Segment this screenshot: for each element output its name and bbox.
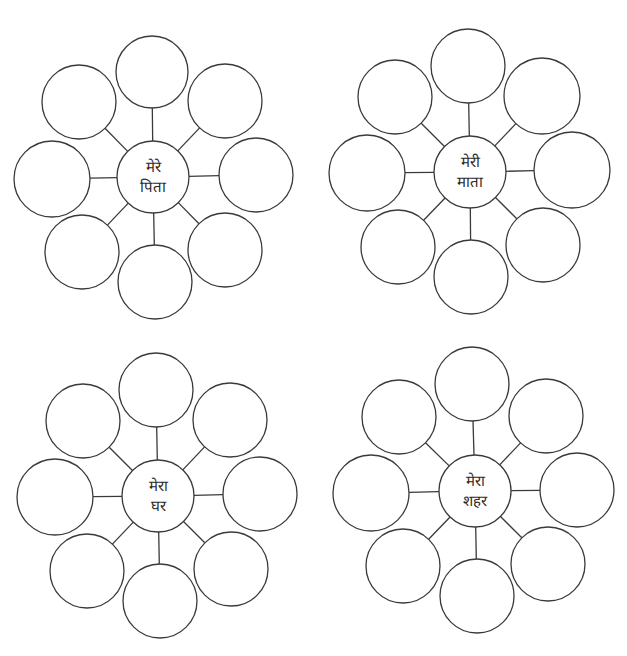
- connector-line: [501, 517, 522, 538]
- connector-line: [183, 447, 205, 470]
- connector-line: [90, 178, 117, 179]
- connector-line: [473, 421, 474, 455]
- connector-line: [184, 522, 205, 543]
- connector-line: [178, 203, 199, 224]
- connector-line: [476, 527, 477, 559]
- center-topic-label: मेरी: [461, 153, 481, 171]
- empty-answer-circle[interactable]: [329, 135, 405, 211]
- connector-line: [107, 203, 128, 225]
- empty-answer-circle[interactable]: [42, 65, 116, 139]
- connector-line: [159, 532, 160, 564]
- connector-line: [109, 447, 132, 470]
- empty-answer-circle[interactable]: [46, 384, 120, 458]
- connector-line: [429, 517, 451, 539]
- empty-answer-circle[interactable]: [504, 58, 580, 134]
- center-topic-label: शहर: [463, 492, 488, 510]
- mind-map-mera-ghar: मेराघर: [17, 353, 297, 638]
- center-topic-label: मेरा: [466, 472, 486, 490]
- empty-answer-circle[interactable]: [358, 60, 432, 134]
- empty-answer-circle[interactable]: [188, 213, 262, 287]
- mind-map-meri-mata: मेरीमाता: [329, 29, 610, 314]
- empty-answer-circle[interactable]: [366, 529, 440, 603]
- connector-line: [409, 492, 439, 493]
- connector-line: [496, 198, 517, 219]
- empty-answer-circle[interactable]: [434, 240, 508, 314]
- mind-map-mere-pita: मेरेपिता: [14, 36, 293, 319]
- empty-answer-circle[interactable]: [440, 559, 514, 633]
- mind-map-worksheet: मेरेपितामेरीमातामेराघरमेराशहर: [0, 0, 627, 656]
- empty-answer-circle[interactable]: [194, 532, 268, 606]
- connector-line: [469, 103, 470, 136]
- center-topic-label: माता: [457, 173, 484, 191]
- empty-answer-circle[interactable]: [17, 459, 93, 535]
- center-topic-circle: [122, 460, 194, 532]
- empty-answer-circle[interactable]: [509, 379, 583, 453]
- center-topic-label: मेरे: [146, 158, 162, 176]
- empty-answer-circle[interactable]: [361, 210, 435, 284]
- connector-line: [426, 443, 450, 466]
- empty-answer-circle[interactable]: [119, 353, 193, 427]
- center-topic-circle: [117, 141, 189, 213]
- connector-line: [500, 443, 521, 465]
- connector-line: [194, 495, 223, 496]
- empty-answer-circle[interactable]: [45, 215, 119, 289]
- empty-answer-circle[interactable]: [362, 380, 436, 454]
- empty-answer-circle[interactable]: [14, 141, 90, 217]
- center-topic-circle: [434, 136, 506, 208]
- empty-answer-circle[interactable]: [50, 534, 124, 608]
- empty-answer-circle[interactable]: [118, 245, 192, 319]
- connector-line: [105, 128, 128, 151]
- connector-line: [424, 198, 446, 220]
- connector-line: [157, 427, 158, 460]
- empty-answer-circle[interactable]: [511, 527, 585, 601]
- connector-line: [189, 176, 219, 177]
- empty-answer-circle[interactable]: [506, 208, 580, 282]
- center-topic-label: मेरा: [149, 477, 169, 495]
- empty-answer-circle[interactable]: [188, 64, 262, 138]
- empty-answer-circle[interactable]: [123, 564, 197, 638]
- empty-answer-circle[interactable]: [534, 132, 610, 208]
- empty-answer-circle[interactable]: [435, 347, 509, 421]
- connector-line: [154, 213, 155, 245]
- connector-line: [178, 128, 200, 151]
- empty-answer-circle[interactable]: [333, 455, 409, 531]
- empty-answer-circle[interactable]: [219, 138, 293, 212]
- mind-map-mera-shahar: मेराशहर: [333, 347, 614, 633]
- connector-line: [112, 522, 133, 544]
- empty-answer-circle[interactable]: [223, 457, 297, 531]
- center-topic-label: पिता: [140, 178, 167, 196]
- center-topic-circle: [439, 455, 511, 527]
- empty-answer-circle[interactable]: [116, 36, 188, 108]
- empty-answer-circle[interactable]: [193, 383, 267, 457]
- empty-answer-circle[interactable]: [431, 29, 505, 103]
- center-topic-label: घर: [151, 497, 167, 515]
- empty-answer-circle[interactable]: [540, 453, 614, 527]
- connector-line: [506, 171, 534, 172]
- connector-line: [421, 123, 444, 146]
- connector-line: [495, 124, 516, 146]
